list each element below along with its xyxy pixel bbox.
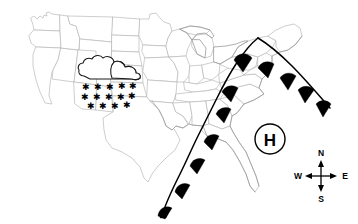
warm-front-bump-10 xyxy=(298,86,314,103)
snowflake: ✱ xyxy=(82,82,90,92)
snowflake: ✱ xyxy=(87,101,95,111)
us-state-boundaries xyxy=(29,12,302,192)
snowflake: ✱ xyxy=(99,101,107,111)
compass-north-arrowhead xyxy=(318,160,324,167)
snowflake: ✱ xyxy=(106,82,114,92)
state-washington xyxy=(31,12,60,31)
state-oregon xyxy=(29,30,61,48)
state-iowa xyxy=(142,45,169,58)
state-south-dakota xyxy=(112,35,139,52)
warm-front-bump-9 xyxy=(280,73,296,90)
state-ohio xyxy=(202,62,220,80)
snowflake: ✱ xyxy=(123,100,131,110)
snowflake: ✱ xyxy=(94,82,102,92)
state-arkansas xyxy=(147,80,177,103)
snowflake: ✱ xyxy=(111,101,119,111)
compass-rose: N S E W xyxy=(294,148,348,204)
weather-map-canvas: ✱ ✱ ✱ ✱ ✱ ✱ ✱ ✱ ✱ ✱ ✱ ✱ ✱ ✱ H xyxy=(0,0,358,224)
compass-west-arrowhead xyxy=(305,173,312,179)
snowflake: ✱ xyxy=(118,81,126,91)
warm-front-bump-3 xyxy=(190,158,205,174)
compass-label-north: N xyxy=(318,148,324,158)
state-north-dakota xyxy=(112,17,140,36)
compass-south-arrowhead xyxy=(318,185,324,192)
state-alabama xyxy=(190,101,209,126)
weather-map: ✱ ✱ ✱ ✱ ✱ ✱ ✱ ✱ ✱ ✱ ✱ ✱ ✱ ✱ H xyxy=(0,0,358,224)
compass-label-west: W xyxy=(294,171,303,181)
state-indiana xyxy=(189,65,204,84)
warm-front-bump-11 xyxy=(316,101,331,117)
compass-label-south: S xyxy=(318,194,324,204)
high-pressure-system: H xyxy=(255,124,285,154)
high-pressure-label: H xyxy=(264,131,276,150)
compass-label-east: E xyxy=(342,171,348,181)
snowflake: ✱ xyxy=(129,81,137,91)
state-florida xyxy=(202,124,259,192)
warm-front-bump-2 xyxy=(175,184,190,199)
warm-front-bump-4 xyxy=(204,134,219,150)
compass-east-arrowhead xyxy=(330,173,337,179)
